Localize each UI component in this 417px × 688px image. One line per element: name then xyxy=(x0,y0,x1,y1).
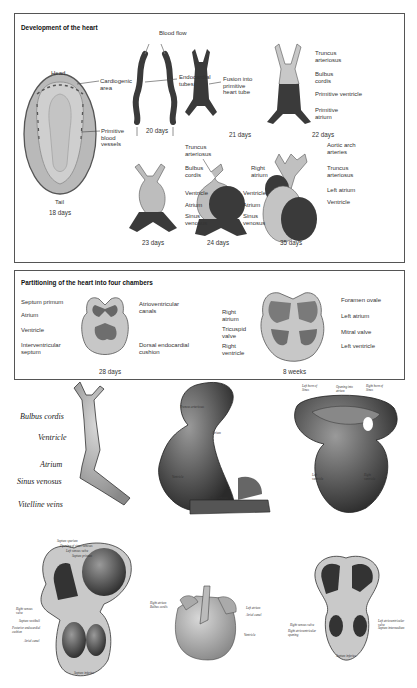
external-view-engraving-icon xyxy=(175,586,236,660)
label-dorsal-cushion: Dorsal endocardial cushion xyxy=(139,342,189,355)
label-blood-flow: Blood flow xyxy=(159,30,187,37)
label-truncus-23: Truncus arteriosus xyxy=(185,144,211,157)
label-ext-canal: Atrial canal xyxy=(246,614,261,618)
label-septum-inferius: Septum inferius xyxy=(74,672,94,676)
label-left-atrium-35: Left atrium xyxy=(327,187,355,194)
label-cut-right-horn: Right horn of Sinus xyxy=(366,385,383,392)
opened-heart-engraving-icon xyxy=(295,395,398,512)
caption-20-days: 20 days xyxy=(146,127,168,134)
development-illustrations xyxy=(15,14,406,264)
heart-8-weeks-icon xyxy=(261,293,324,362)
frontal-section-engraving-icon xyxy=(315,556,379,660)
label-primitive-vessels: Primitive blood vessels xyxy=(101,128,124,148)
label-bulbus-cordis: Bulbus cordis xyxy=(20,412,64,421)
label-tricuspid: Tricuspid valve xyxy=(222,326,246,339)
label-septum-vestibuli: Septum vestibuli xyxy=(19,620,40,624)
label-loop-sinus: Sinus venosus xyxy=(210,497,228,501)
label-primitive-ventricle: Primitive ventricle xyxy=(315,91,362,98)
label-septum-primum: Septum primum xyxy=(21,299,63,306)
label-cardiogenic-area: Cardiogenic area xyxy=(100,78,132,91)
label-right-atrium-35: Right atrium xyxy=(251,165,268,178)
label-ext-bulbus: Bulbus cordis xyxy=(150,606,168,610)
label-cut-left-horn: Left horn of Sinus xyxy=(302,385,317,392)
label-cut-rv: Right ventricle xyxy=(364,474,375,481)
label-cut-lv: Left ventricle xyxy=(312,474,323,481)
label-atrial-canal: Atrial canal xyxy=(24,640,39,644)
label-truncus-22: Truncus arteriosus xyxy=(315,50,341,63)
label-ventricle-35: Ventricle xyxy=(327,199,350,206)
caption-35-days: 35 days xyxy=(280,239,302,246)
label-primitive-atrium: Primitive atrium xyxy=(315,107,338,120)
label-atrium-23: Atrium xyxy=(185,202,202,209)
label-septum-primum-eng: Septum primum xyxy=(72,555,92,559)
label-loop-atrium: Atrium xyxy=(212,432,221,436)
heart-28-days-icon xyxy=(82,298,129,355)
label-ventricle-28: Ventricle xyxy=(21,327,44,334)
panel-four-chambers: Partitioning of the heart into four cham… xyxy=(14,270,405,380)
partition-illustrations xyxy=(15,271,406,381)
label-mitral-valve: Mitral valve xyxy=(341,329,371,336)
label-atrium-eng: Atrium xyxy=(40,460,62,469)
label-right-ventricle: Right ventricle xyxy=(222,343,244,356)
label-bulbus-22: Bulbus cordis xyxy=(315,71,333,84)
label-right-atrium: Right atrium xyxy=(222,309,239,322)
label-loop-truncus: Truncus arteriosus xyxy=(180,406,204,410)
label-av-canals: Atrioventricular canals xyxy=(139,301,179,314)
label-ventricle-eng: Ventricle xyxy=(38,433,66,442)
panel-heart-development: Development of the heart xyxy=(14,13,405,263)
label-atrium-24: Atrium xyxy=(243,202,260,209)
label-sinus-venosus-eng: Sinus venosus xyxy=(17,477,62,486)
tubular-heart-engraving-icon xyxy=(74,382,130,505)
label-sec-right-valve: Right venous valve xyxy=(290,624,314,628)
label-loop-ventricle: Ventricle xyxy=(172,476,183,480)
caption-8-weeks: 8 weeks xyxy=(283,368,306,375)
label-foramen-ovale: Foramen ovale xyxy=(341,297,381,304)
endocardial-tubes-icon xyxy=(136,44,177,136)
looped-heart-engraving-icon xyxy=(159,382,270,514)
label-sinus-23: Sinus venosus xyxy=(185,213,207,226)
label-aortic-arches: Aortic arch arteries xyxy=(327,142,356,155)
label-fusion: Fusion into primitive heart tube xyxy=(223,76,252,96)
caption-24-days: 24 days xyxy=(207,239,229,246)
label-ventricle-24: Ventricle xyxy=(243,190,266,197)
label-posterior-cushion: Posterior endocardial cushion xyxy=(12,627,40,634)
day22-heart-icon xyxy=(267,44,311,124)
label-endocardial-tubes: Endocardial tubes xyxy=(179,74,211,87)
label-left-atrium: Left atrium xyxy=(341,313,369,320)
caption-28-days: 28 days xyxy=(99,368,121,375)
label-sinus-24: Sinus venosus xyxy=(243,213,265,226)
label-ext-ventricle: Ventricle xyxy=(244,634,255,638)
label-truncus-35: Truncus arteriosus xyxy=(327,165,353,178)
day23-heart-icon xyxy=(129,164,177,232)
caption-22-days: 22 days xyxy=(312,131,334,138)
label-sec-septum-inf: Septum inferius xyxy=(336,655,356,659)
day35-heart-icon xyxy=(263,154,317,242)
caption-18-days: 18 days xyxy=(49,209,71,216)
label-bulbus-23: Bulbus cordis xyxy=(185,165,203,178)
interior-septation-engraving-icon xyxy=(41,543,131,676)
label-sec-right-av: Right atrioventricular opening xyxy=(288,630,316,637)
label-left-ventricle: Left ventricle xyxy=(341,343,375,350)
label-atrium-28: Atrium xyxy=(21,312,38,319)
label-iv-septum: Interventricular septum xyxy=(21,342,61,355)
label-sec-septum: Septum intermedium xyxy=(378,627,404,631)
label-ventricle-23: Ventricle xyxy=(185,190,208,197)
label-cut-opening: Opening into atrium xyxy=(336,386,353,393)
label-head: Head xyxy=(51,70,65,77)
caption-21-days: 21 days xyxy=(229,131,251,138)
label-right-venous-valve: Right venous valve xyxy=(16,608,33,615)
caption-23-days: 23 days xyxy=(142,239,164,246)
embryo-disc-icon xyxy=(24,74,100,194)
label-vitelline-veins: Vitelline veins xyxy=(18,500,63,509)
label-tail: Tail xyxy=(55,199,64,206)
label-ext-left-atrium: Left atrium xyxy=(246,607,260,611)
